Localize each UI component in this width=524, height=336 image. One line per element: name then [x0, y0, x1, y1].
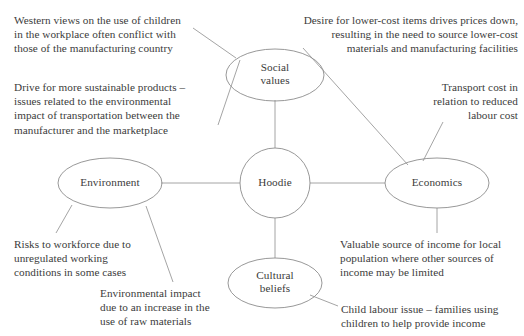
note-valuable-income: Valuable source of income for local popu… — [340, 237, 520, 280]
note-risks-workforce: Risks to workforce due to unregulated wo… — [14, 237, 159, 280]
link-note-transport-cost — [423, 122, 443, 161]
note-lower-cost-items: Desire for lower-cost items drives price… — [288, 13, 518, 56]
mind-map-canvas: Social values Environment Hoodie Economi… — [0, 0, 524, 336]
note-child-labour: Child labour issue – families using chil… — [341, 302, 521, 330]
note-environmental-impact: Environmental impact due to an increase … — [100, 286, 250, 329]
link-note-risks-workforce — [56, 205, 72, 233]
note-western-views: Western views on the use of children in … — [14, 13, 219, 56]
node-label-environment: Environment — [58, 176, 162, 189]
node-label-economics: Economics — [385, 176, 489, 189]
note-transport-cost: Transport cost in relation to reduced la… — [400, 80, 518, 123]
node-label-social-values: Social values — [225, 61, 325, 87]
note-sustainable-products: Drive for more sustainable products – is… — [14, 80, 229, 137]
node-label-hoodie: Hoodie — [240, 176, 310, 189]
